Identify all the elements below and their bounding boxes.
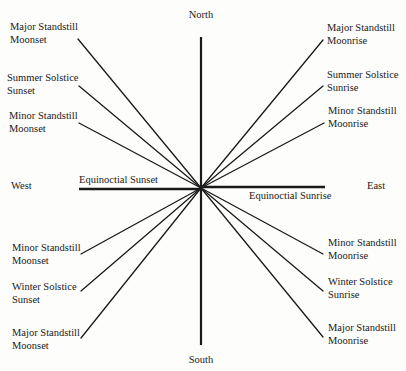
summer-solstice-sunrise-label: Summer SolsticeSunrise <box>327 69 399 93</box>
major-standstill-moonset-north-line <box>78 39 201 188</box>
minor-standstill-moonset-south-label: Minor StandstillMoonset <box>12 242 81 266</box>
major-standstill-moonrise-north-line <box>201 40 323 188</box>
north-label: North <box>189 9 214 20</box>
minor-standstill-moonrise-north-line <box>201 123 324 188</box>
east-label: East <box>367 180 385 191</box>
major-standstill-moonset-south-label: Major StandstillMoonset <box>12 327 80 351</box>
major-standstill-moonset-north-label: Major StandstillMoonset <box>10 21 78 45</box>
minor-standstill-moonset-south-line <box>81 188 201 254</box>
summer-solstice-sunset-label: Summer SolsticeSunset <box>7 72 79 96</box>
minor-standstill-moonset-north-label: Minor StandstillMoonset <box>9 110 78 134</box>
summer-solstice-sunrise-line <box>201 86 323 188</box>
minor-standstill-moonrise-south-label: Minor StandstillMoonrise <box>328 237 397 261</box>
major-standstill-moonrise-south-line <box>201 188 323 337</box>
winter-solstice-sunrise-label: Winter SolsticeSunrise <box>328 276 393 300</box>
major-standstill-moonrise-south-label: Major StandstillMoonrise <box>328 322 396 346</box>
equinoctial-sunrise-label: Equinoctial Sunrise <box>249 190 332 201</box>
major-standstill-moonset-south-line <box>81 188 201 338</box>
major-standstill-moonrise-north-label: Major StandstillMoonrise <box>327 22 395 46</box>
summer-solstice-sunset-line <box>79 86 201 188</box>
winter-solstice-sunset-line <box>81 188 201 291</box>
diagram-canvas: Equinoctial Sunset Equinoctial Sunrise N… <box>0 0 406 371</box>
winter-solstice-sunset-label: Winter SolsticeSunset <box>12 281 77 305</box>
minor-standstill-moonrise-north-label: Minor StandstillMoonrise <box>328 105 397 129</box>
equinoctial-sunset-label: Equinoctial Sunset <box>79 174 158 185</box>
south-label: South <box>189 354 214 365</box>
west-label: West <box>11 180 32 191</box>
winter-solstice-sunrise-line <box>201 188 323 291</box>
alignment-diagram: Equinoctial Sunset Equinoctial Sunrise N… <box>0 0 406 371</box>
